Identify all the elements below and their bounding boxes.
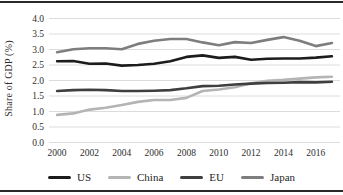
svg-text:2014: 2014 <box>274 148 293 158</box>
legend-item-us: US <box>48 171 91 183</box>
legend-item-china: China <box>108 171 163 183</box>
svg-text:1.5: 1.5 <box>32 91 44 101</box>
svg-text:0.5: 0.5 <box>32 122 44 132</box>
legend-item-eu: EU <box>180 171 224 183</box>
svg-text:3.5: 3.5 <box>32 29 44 39</box>
legend-swatch <box>48 176 71 179</box>
legend-label: China <box>137 171 163 183</box>
bottom-rule <box>0 190 343 192</box>
svg-text:0.0: 0.0 <box>32 138 44 148</box>
svg-text:3.0: 3.0 <box>32 45 44 55</box>
svg-text:2.5: 2.5 <box>32 60 44 70</box>
svg-text:2.0: 2.0 <box>32 76 44 86</box>
svg-text:2012: 2012 <box>242 148 261 158</box>
svg-text:2002: 2002 <box>80 148 99 158</box>
legend-swatch <box>180 176 203 179</box>
svg-text:2000: 2000 <box>48 148 67 158</box>
legend-swatch <box>241 176 264 179</box>
svg-text:2008: 2008 <box>177 148 196 158</box>
svg-text:1.0: 1.0 <box>32 107 44 117</box>
chart-svg: 4.03.53.02.52.01.51.00.50.02000200220042… <box>0 0 343 162</box>
svg-text:2006: 2006 <box>145 148 164 158</box>
svg-text:4.0: 4.0 <box>32 14 44 24</box>
svg-text:2010: 2010 <box>209 148 228 158</box>
legend: US China EU Japan <box>0 167 343 187</box>
svg-text:2004: 2004 <box>112 148 131 158</box>
legend-swatch <box>108 176 131 179</box>
legend-label: EU <box>209 171 224 183</box>
svg-text:2016: 2016 <box>306 148 325 158</box>
legend-label: US <box>77 171 91 183</box>
legend-item-japan: Japan <box>241 171 295 183</box>
legend-label: Japan <box>270 171 295 183</box>
figure: Share of GDP (%) 4.03.53.02.52.01.51.00.… <box>0 0 343 195</box>
